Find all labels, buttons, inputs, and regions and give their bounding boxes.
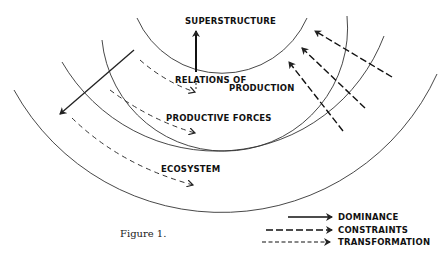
legend-constraints-label: CONSTRAINTS <box>338 225 408 235</box>
label-ecosystem: ECOSYSTEM <box>161 164 221 174</box>
figure-caption: Figure 1. <box>120 228 166 239</box>
arc-ecosystem-boundary <box>14 74 437 212</box>
figure-diagram: SUPERSTRUCTURE RELATIONS OF PRODUCTION P… <box>0 0 448 261</box>
dominance-arrow-diagonal <box>60 50 134 114</box>
label-superstructure: SUPERSTRUCTURE <box>185 16 276 26</box>
label-productive-forces: PRODUCTIVE FORCES <box>166 113 272 123</box>
transformation-arrow-ecosystem <box>72 118 193 185</box>
constraint-arrow-2 <box>302 48 365 108</box>
arc-superstructure-boundary <box>137 18 307 73</box>
arc-productive-boundary <box>62 36 384 151</box>
label-relations-line2: PRODUCTION <box>229 83 295 93</box>
legend: DOMINANCE CONSTRAINTS TRANSFORMATION <box>262 212 430 247</box>
constraint-arrow-1 <box>315 31 392 77</box>
transformation-arrow-productive <box>110 90 195 133</box>
legend-transformation-label: TRANSFORMATION <box>338 237 430 247</box>
legend-dominance-label: DOMINANCE <box>338 212 399 222</box>
